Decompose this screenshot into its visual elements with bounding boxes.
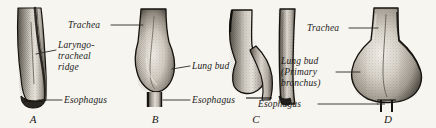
panel-a-stipple (16, 8, 48, 108)
label-lung-bud-d-line1: Lung bud (280, 56, 318, 66)
panel-letter-b: B (152, 113, 159, 125)
label-esophagus-b: Esophagus (191, 95, 235, 105)
label-laryngotracheal-ridge-line2: tracheal (58, 51, 91, 61)
panel-b-esophagus-texture (149, 92, 161, 107)
label-trachea-d: Trachea (307, 23, 339, 33)
figure-canvas: Laryngo- tracheal ridge Esophagus A (0, 0, 436, 128)
label-lung-bud-d-line2: (Primary (281, 67, 318, 78)
panel-letter-a: A (29, 113, 37, 125)
embryology-figure: Laryngo- tracheal ridge Esophagus A (0, 0, 436, 128)
label-esophagus-a: Esophagus (63, 95, 107, 105)
label-esophagus-d: Esophagus (257, 99, 301, 109)
label-laryngotracheal-ridge-line1: Laryngo- (57, 40, 95, 50)
panel-letter-d: D (383, 113, 392, 125)
label-laryngotracheal-ridge-line3: ridge (58, 62, 79, 72)
label-trachea-b: Trachea (68, 20, 100, 30)
label-lung-bud-d-line3: bronchus) (281, 78, 321, 89)
panel-letter-c: C (252, 113, 260, 125)
label-lung-bud-b: Lung bud (191, 61, 229, 71)
panel-a-drawing (16, 8, 48, 108)
